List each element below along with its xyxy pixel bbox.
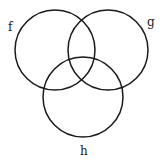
set-f-circle (15, 10, 95, 90)
set-g-circle (68, 10, 148, 90)
set-h-label: h (80, 144, 88, 158)
venn-diagram: f g h (0, 0, 163, 160)
set-h-circle (43, 57, 123, 137)
set-f-label: f (8, 20, 14, 34)
set-g-label: g (147, 15, 155, 29)
